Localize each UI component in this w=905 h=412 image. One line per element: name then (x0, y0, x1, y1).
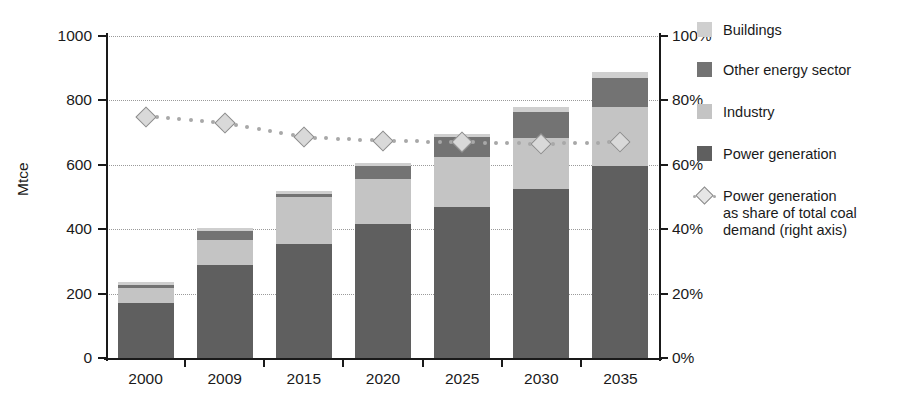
y-axis-left-label: 200 (30, 285, 92, 303)
y-axis-left-label: 1000 (30, 27, 92, 45)
line-dot (517, 141, 521, 145)
line-dot (573, 141, 577, 145)
y-axis-right-line (659, 33, 661, 361)
y-axis-left-label: 400 (30, 220, 92, 238)
legend-label: Power generation (723, 146, 837, 163)
line-dot (404, 139, 408, 143)
x-axis-tick (263, 358, 265, 367)
bar-segment[interactable] (197, 228, 253, 231)
line-dot (189, 118, 193, 122)
bar-stack[interactable] (513, 36, 569, 358)
line-dot (415, 139, 419, 143)
bar-segment[interactable] (355, 163, 411, 166)
line-dot (494, 141, 498, 145)
x-axis-label: 2020 (366, 370, 400, 388)
line-dot (347, 137, 351, 141)
y-axis-right-tick (659, 293, 668, 295)
bar-segment[interactable] (355, 179, 411, 224)
x-axis-label: 2025 (445, 370, 479, 388)
bar-segment[interactable] (355, 166, 411, 179)
legend-swatch (697, 146, 712, 161)
y-axis-right-tick (659, 357, 668, 359)
x-axis-label: 2035 (603, 370, 637, 388)
x-axis-label: 2000 (128, 370, 162, 388)
line-dot (585, 141, 589, 145)
legend-swatch (697, 104, 712, 119)
line-dot (505, 141, 509, 145)
y-axis-left-tick (98, 293, 107, 295)
y-axis-right-tick (659, 35, 668, 37)
x-axis-tick (501, 358, 503, 367)
bar-segment[interactable] (276, 244, 332, 358)
line-dot (596, 141, 600, 145)
x-axis-tick (580, 358, 582, 367)
bar-segment[interactable] (118, 303, 174, 358)
y-axis-left-line (106, 33, 108, 361)
x-axis-label: 2009 (207, 370, 241, 388)
bar-segment[interactable] (513, 107, 569, 112)
bar-stack[interactable] (118, 36, 174, 358)
legend-label: Power generation as share of total coal … (723, 188, 857, 239)
bar-segment[interactable] (434, 157, 490, 207)
y-axis-right-label: 0% (672, 349, 732, 367)
bar-segment[interactable] (118, 288, 174, 302)
bar-segment[interactable] (197, 265, 253, 358)
bar-segment[interactable] (276, 194, 332, 197)
bar-segment[interactable] (592, 78, 648, 107)
bar-segment[interactable] (592, 166, 648, 358)
line-dot (268, 129, 272, 133)
y-axis-left-tick (98, 357, 107, 359)
line-dot (245, 125, 249, 129)
line-dot (324, 136, 328, 140)
chart-container: Mtce 020040060080010000%20%40%60%80%100%… (0, 0, 905, 412)
bar-segment[interactable] (197, 240, 253, 264)
line-dot (438, 140, 442, 144)
legend-line-marker-icon (697, 188, 712, 203)
x-axis-label: 2030 (524, 370, 558, 388)
line-dot (257, 127, 261, 131)
line-dot (166, 116, 170, 120)
line-dot (177, 117, 181, 121)
line-dot (336, 137, 340, 141)
y-axis-left-tick (98, 35, 107, 37)
y-axis-right-tick (659, 99, 668, 101)
legend-swatch (697, 62, 712, 77)
y-axis-right-tick (659, 164, 668, 166)
legend-label: Industry (723, 104, 775, 121)
legend-item[interactable]: Power generation as share of total coal … (697, 188, 857, 239)
bar-segment[interactable] (118, 285, 174, 288)
legend-swatch (697, 22, 712, 37)
legend-item[interactable]: Industry (697, 104, 775, 121)
bar-segment[interactable] (197, 231, 253, 241)
y-axis-left-label: 0 (30, 349, 92, 367)
x-axis-tick (342, 358, 344, 367)
bar-segment[interactable] (118, 282, 174, 285)
x-axis-label: 2015 (287, 370, 321, 388)
bar-segment[interactable] (592, 72, 648, 77)
y-axis-left-tick (98, 99, 107, 101)
y-axis-right-tick (659, 228, 668, 230)
x-axis-tick (184, 358, 186, 367)
bar-stack[interactable] (592, 36, 648, 358)
y-axis-left-label: 800 (30, 91, 92, 109)
legend-label: Other energy sector (723, 62, 851, 79)
bar-segment[interactable] (513, 189, 569, 358)
legend-item[interactable]: Other energy sector (697, 62, 851, 79)
y-axis-left-label: 600 (30, 156, 92, 174)
bar-segment[interactable] (355, 224, 411, 358)
bar-segment[interactable] (434, 207, 490, 358)
bar-segment[interactable] (276, 191, 332, 194)
y-axis-left-tick (98, 164, 107, 166)
plot-area (106, 36, 660, 358)
legend-item[interactable]: Power generation (697, 146, 837, 163)
bar-stack[interactable] (434, 36, 490, 358)
bar-stack[interactable] (355, 36, 411, 358)
legend-label: Buildings (723, 22, 782, 39)
bar-segment[interactable] (276, 197, 332, 244)
line-dot (426, 140, 430, 144)
bar-stack[interactable] (276, 36, 332, 358)
legend-item[interactable]: Buildings (697, 22, 782, 39)
bar-stack[interactable] (197, 36, 253, 358)
line-dot (200, 119, 204, 123)
line-dot (483, 141, 487, 145)
